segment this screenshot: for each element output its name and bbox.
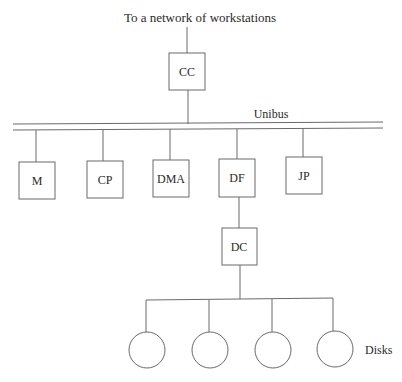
disk-3 xyxy=(255,332,291,368)
unibus-diagram: To a network of workstations CC Unibus M… xyxy=(0,0,402,382)
diagram-title: To a network of workstations xyxy=(124,10,276,25)
node-cp-label: CP xyxy=(98,173,113,187)
node-dc-label: DC xyxy=(231,240,248,254)
unibus-line-top xyxy=(13,122,383,124)
unibus xyxy=(13,122,383,130)
node-cc-label: CC xyxy=(179,65,195,79)
node-dc: DC xyxy=(222,228,257,265)
disk-4 xyxy=(317,331,353,367)
disk-2 xyxy=(192,332,228,368)
unibus-label: Unibus xyxy=(254,107,289,121)
disk-1 xyxy=(129,332,165,368)
node-jp-label: JP xyxy=(298,169,310,183)
node-m: M xyxy=(19,162,55,199)
node-m-label: M xyxy=(32,174,43,188)
node-dma: DMA xyxy=(153,160,189,197)
node-df: DF xyxy=(219,159,255,197)
unibus-line-bottom xyxy=(13,128,383,130)
node-cc: CC xyxy=(169,53,205,90)
node-jp: JP xyxy=(286,157,322,194)
node-cp: CP xyxy=(87,161,123,198)
node-df-label: DF xyxy=(229,171,245,185)
node-dma-label: DMA xyxy=(157,172,185,186)
disks-label: Disks xyxy=(365,343,393,357)
